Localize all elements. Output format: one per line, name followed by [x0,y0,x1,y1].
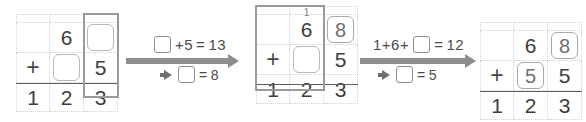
addend2-cell-ones: 5 [324,45,358,75]
transition-arrow-2-head [465,54,476,68]
carry-cell-hundreds [16,14,50,23]
carry-cell-tens [514,22,548,31]
addend1-cell-hundreds [16,23,50,53]
addend2-cell-tens [50,53,84,83]
plus-sign: + [480,61,514,91]
addend1-cell-ones: 8 [548,31,582,61]
arrow-1-bottom-equals: = [198,67,209,83]
sum-cell-ones: 3 [548,91,582,120]
arrow-2-equation-bottom: = 5 [382,66,438,83]
transition-arrow-1-head [228,54,239,68]
sum-cell-ones: 3 [324,75,358,104]
result-arrow-icon [164,70,172,80]
plus-sign: + [16,53,50,83]
addend1-cell-hundreds [480,31,514,61]
arrow-1-equation-top: +5 = 13 [152,36,227,53]
addend1-cell-ones: 8 [324,15,358,45]
arrow-2-top-prefix: 1+6+ [372,36,410,53]
unknown-box-icon [413,36,430,53]
carry-cell-hundreds [480,22,514,31]
addend2-cell-tens: 5 [514,61,548,91]
result-arrow-icon [382,70,390,80]
unknown-box-icon [154,36,171,53]
transition-arrow-1 [126,58,231,64]
transition-arrow-2 [360,58,468,64]
arrow-2-bottom-equals: = [416,67,427,83]
unknown-box-icon [396,66,413,83]
carry-cell-ones [548,22,582,31]
answer-box-addend1-ones[interactable]: 8 [551,32,578,59]
addend2-cell-ones: 5 [548,61,582,91]
addition-grid-step-3: 6 8 + 5 5 1 2 3 [480,22,582,120]
answer-box-addend1-ones[interactable]: 8 [327,16,354,43]
unknown-box-icon [178,66,195,83]
addend1-cell-tens: 6 [50,23,84,53]
arrow-2-top-equals: = [433,36,444,53]
arrow-1-top-result: 13 [207,36,227,53]
worked-example-canvas: 6 + 5 1 2 3 +5 = 13 = 8 1 6 8 [0,0,586,122]
answer-box-addend2-tens[interactable] [53,54,80,81]
sum-cell-hundreds: 1 [480,91,514,120]
addend1-cell-tens: 6 [514,31,548,61]
column-highlight-ones-step-1 [83,13,119,98]
carry-cell-tens [50,14,84,23]
arrow-1-equation-bottom: = 8 [164,66,220,83]
answer-box-addend2-tens[interactable]: 5 [517,62,544,89]
column-highlight-tens-step-2 [255,5,325,91]
arrow-1-bottom-result: 8 [210,67,220,83]
arrow-2-bottom-result: 5 [428,67,438,83]
sum-cell-tens: 2 [514,91,548,120]
carry-cell-ones [324,6,358,15]
sum-rule-step-3 [480,91,582,92]
sum-cell-hundreds: 1 [16,83,50,112]
arrow-1-top-equals: = [195,36,206,53]
arrow-1-top-operand: +5 [174,36,194,53]
arrow-2-equation-top: 1+6+ = 12 [372,36,465,53]
arrow-2-top-result: 12 [445,36,465,53]
sum-cell-tens: 2 [50,83,84,112]
